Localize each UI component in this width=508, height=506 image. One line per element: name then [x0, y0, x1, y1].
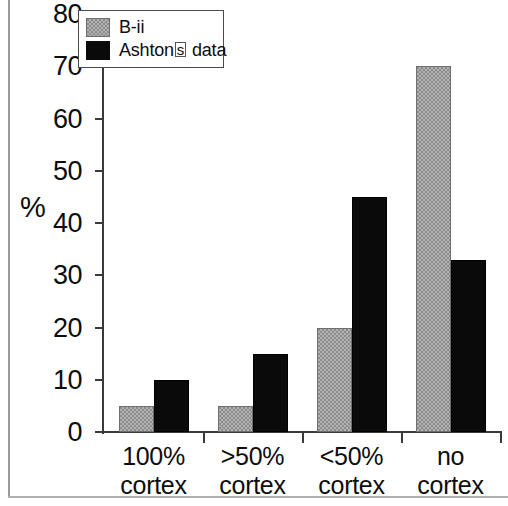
y-axis-tick-label: 30	[0, 260, 82, 291]
x-axis-label-1: >50%cortex	[203, 442, 302, 500]
legend-label-ashtons-data: Ashtons data	[119, 40, 226, 61]
y-axis-tick-label: 80	[0, 0, 82, 30]
y-axis-tick-label: 40	[0, 208, 82, 239]
y-axis-tick-label: 0	[0, 417, 82, 448]
x-axis-label-2: <50%cortex	[302, 442, 401, 500]
y-axis-tick-label: 50	[0, 155, 82, 186]
x-axis-label-line: <50%	[302, 442, 401, 471]
y-axis-tick-mark	[95, 379, 104, 381]
y-axis-tick-mark	[95, 222, 104, 224]
bar-series-a-1	[218, 406, 253, 432]
chart-legend: B-ii Ashtons data	[78, 10, 224, 68]
legend-item-ashtons-data: Ashtons data	[86, 39, 226, 61]
x-axis-label-line: no	[401, 442, 500, 471]
bars-container	[104, 14, 500, 432]
bar-series-b-0	[154, 380, 189, 432]
legend-label-box-glyph: s	[175, 42, 186, 57]
x-axis-label-3: nocortex	[401, 442, 500, 500]
x-axis-label-line: 100%	[104, 442, 203, 471]
legend-swatch-b-ii	[86, 18, 110, 37]
y-axis-tick-label: 10	[0, 364, 82, 395]
x-axis-label-line: cortex	[203, 471, 302, 500]
y-axis-tick-label: 60	[0, 103, 82, 134]
y-axis-tick-label: 20	[0, 312, 82, 343]
x-axis-tick-mark	[500, 433, 502, 443]
legend-label-b-ii: B-ii	[119, 17, 144, 38]
bar-series-b-3	[451, 260, 486, 432]
x-axis-label-line: cortex	[401, 471, 500, 500]
legend-label-suffix: data	[187, 40, 226, 60]
legend-item-b-ii: B-ii	[86, 16, 144, 38]
bar-series-a-3	[416, 66, 451, 432]
x-axis-label-0: 100%cortex	[104, 442, 203, 500]
legend-swatch-ashtons-data	[86, 41, 110, 60]
y-axis-tick-mark	[95, 327, 104, 329]
x-axis-label-line: cortex	[302, 471, 401, 500]
bar-series-a-2	[317, 328, 352, 433]
y-axis-tick-mark	[95, 118, 104, 120]
y-axis-tick-mark	[95, 431, 104, 433]
bar-series-b-2	[352, 197, 387, 432]
plot-area	[104, 14, 500, 432]
y-axis-tick-mark	[95, 170, 104, 172]
legend-label-prefix: Ashton	[119, 40, 174, 60]
y-axis-tick-label: 70	[0, 51, 82, 82]
bar-chart-figure: % 01020304050607080 100%cortex>50%cortex…	[0, 0, 508, 506]
y-axis-tick-mark	[95, 274, 104, 276]
x-axis-labels: 100%cortex>50%cortex<50%cortexnocortex	[104, 442, 500, 500]
bar-series-a-0	[119, 406, 154, 432]
bar-series-b-1	[253, 354, 288, 432]
x-axis-label-line: cortex	[104, 471, 203, 500]
x-axis-label-line: >50%	[203, 442, 302, 471]
